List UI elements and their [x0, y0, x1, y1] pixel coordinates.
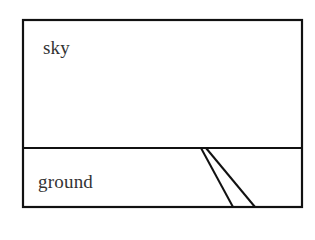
sky-label: sky — [43, 38, 70, 57]
road-left-edge — [201, 148, 233, 207]
ground-label: ground — [38, 172, 93, 191]
road-right-edge — [206, 148, 255, 207]
